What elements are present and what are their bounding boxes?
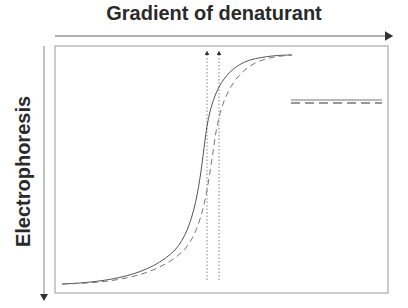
legend [291, 100, 382, 103]
curve-solid [62, 55, 292, 284]
diagram-canvas [0, 0, 408, 308]
curve-dashed [62, 55, 292, 284]
